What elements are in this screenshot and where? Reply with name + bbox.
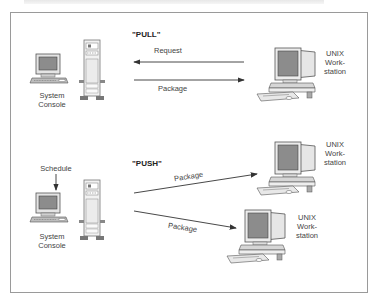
system-console-label: System Console bbox=[30, 91, 74, 109]
unix-workstation-label: UNIX Work- station bbox=[320, 140, 350, 167]
request-label: Request bbox=[154, 46, 182, 55]
system-console-label: System Console bbox=[30, 232, 74, 250]
push-mode-label: "PUSH" bbox=[132, 159, 162, 168]
unix-workstation-icon bbox=[257, 48, 315, 101]
unix-workstation-label: UNIX Work- station bbox=[320, 49, 350, 76]
unix-workstation-icon bbox=[227, 210, 285, 263]
schedule-label: Schedule bbox=[34, 164, 78, 173]
system-console-icon bbox=[30, 54, 68, 83]
pull-mode-label: "PULL" bbox=[132, 30, 160, 39]
system-console-icon bbox=[30, 193, 68, 222]
unix-workstation-icon bbox=[257, 142, 315, 195]
package-label: Package bbox=[158, 84, 187, 93]
unix-workstation-label: UNIX Work- station bbox=[292, 213, 322, 240]
server-tower-icon bbox=[79, 40, 105, 100]
server-tower-icon bbox=[79, 180, 105, 240]
